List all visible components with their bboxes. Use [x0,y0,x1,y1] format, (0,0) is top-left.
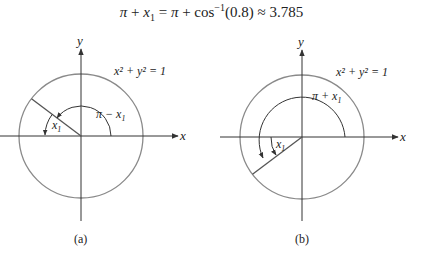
y-label-a: y [75,33,83,48]
caption-a: (a) [74,232,87,246]
x-label-b: x [399,129,406,144]
circle-eq-b: x² + y² = 1 [335,65,388,79]
x-label-a: x [179,128,186,143]
label-pi-minus-x1: π − x1 [96,107,125,123]
unit-circle-diagrams: y x x² + y² = 1 π − x1 x1 (a) y x x² + y… [0,0,423,256]
label-x1-b: x1 [275,137,285,153]
circle-eq-a: x² + y² = 1 [113,64,166,78]
diagram-a: y x x² + y² = 1 π − x1 x1 (a) [0,33,186,246]
y-label-b: y [296,34,304,49]
caption-b: (b) [295,232,309,246]
label-pi-plus-x1: π + x1 [312,89,341,105]
diagram-b: y x x² + y² = 1 π + x1 x1 (b) [220,34,406,246]
